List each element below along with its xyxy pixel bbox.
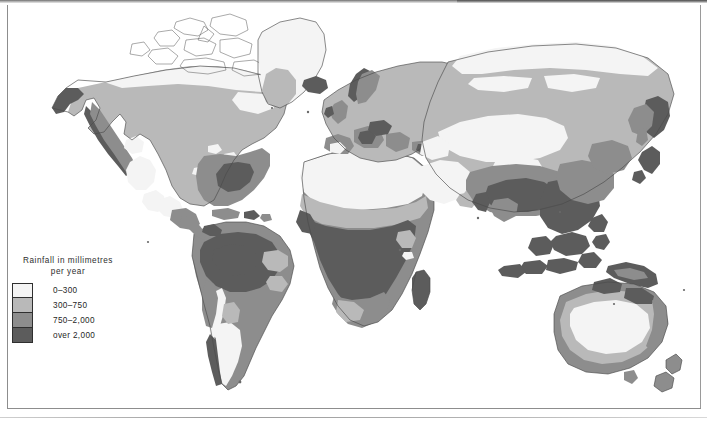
region-africa: [296, 150, 434, 328]
legend-swatch-list: 0–300 300–750 750–2,000 over 2,000: [12, 283, 130, 343]
legend-item-750-2000: 750–2,000: [12, 313, 130, 328]
page-edge-rule: [0, 417, 707, 418]
frame-bottom-rule: [7, 408, 701, 409]
legend-label-750-2000: 750–2,000: [53, 316, 95, 325]
legend-label-over-2000: over 2,000: [53, 331, 95, 340]
legend-item-over-2000: over 2,000: [12, 328, 130, 343]
legend-title: Rainfall in millimetres per year: [12, 256, 124, 277]
world-rainfall-map: .c0{fill:#f4f4f4;} .c1{fill:#b9b9b9;} .c…: [8, 4, 700, 407]
legend-swatch-750-2000: [12, 313, 33, 328]
region-new-zealand: [654, 354, 682, 392]
map-page: .c0{fill:#f4f4f4;} .c1{fill:#b9b9b9;} .c…: [0, 0, 707, 421]
region-south-america: [192, 222, 294, 390]
region-asia: [416, 42, 674, 234]
region-north-america: [52, 66, 288, 230]
map-legend: Rainfall in millimetres per year 0–300 3…: [12, 256, 142, 343]
legend-item-0-300: 0–300: [12, 283, 130, 298]
legend-swatch-300-750: [12, 298, 33, 313]
legend-swatch-over-2000: [12, 328, 33, 343]
frame-right-rule: [700, 5, 701, 408]
legend-label-300-750: 300–750: [53, 301, 87, 310]
region-australia: [554, 278, 668, 384]
legend-swatch-0-300: [12, 283, 33, 298]
scan-edge-band-right: [457, 0, 707, 3]
legend-label-0-300: 0–300: [53, 286, 78, 295]
legend-item-300-750: 300–750: [12, 298, 130, 313]
region-greenland: [258, 18, 326, 108]
